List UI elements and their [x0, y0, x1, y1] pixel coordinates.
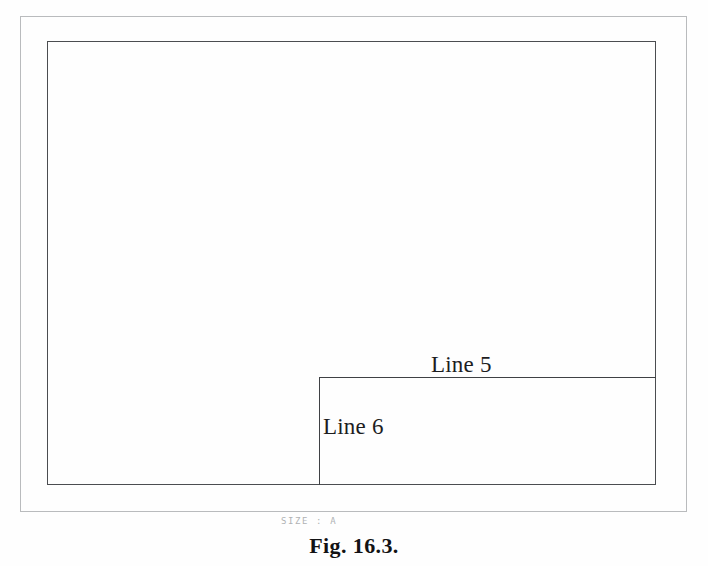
label-line-5: Line 5	[431, 353, 492, 377]
figure-root: Line 5 Line 6 SIZE : A Fig. 16.3.	[0, 0, 708, 566]
label-line-6: Line 6	[323, 415, 384, 439]
figure-caption: Fig. 16.3.	[0, 533, 708, 559]
title-block-top-edge-line5	[319, 377, 656, 378]
title-block-left-edge-line6	[319, 377, 320, 485]
sheet-size-note: SIZE : A	[281, 516, 337, 526]
